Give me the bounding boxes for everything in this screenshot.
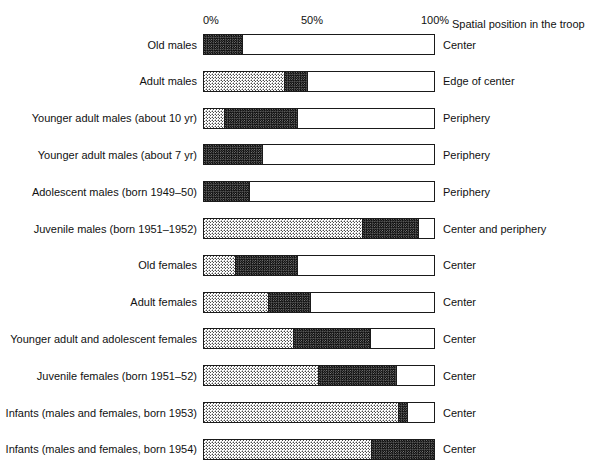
bar-row: Younger adult and adolescent femalesCent… bbox=[0, 328, 597, 349]
bar-track bbox=[203, 108, 435, 129]
bar-track bbox=[203, 218, 435, 239]
bar-row-right-label: Periphery bbox=[443, 185, 490, 198]
bar-track bbox=[203, 328, 435, 349]
bar-track bbox=[203, 255, 435, 276]
bar-segment-light bbox=[204, 293, 269, 312]
bar-row: Adolescent males (born 1949–50)Periphery bbox=[0, 181, 597, 202]
bar-row-label: Adolescent males (born 1949–50) bbox=[32, 185, 197, 198]
bar-segment-dark bbox=[319, 366, 397, 385]
bar-row: Younger adult males (about 10 yr)Periphe… bbox=[0, 108, 597, 129]
bar-segment-light bbox=[204, 366, 319, 385]
bar-track bbox=[203, 402, 435, 423]
bar-row: Old femalesCenter bbox=[0, 255, 597, 276]
bar-segment-light bbox=[204, 256, 236, 275]
bar-row: Adult malesEdge of center bbox=[0, 71, 597, 92]
bar-segment-light bbox=[204, 219, 363, 238]
bar-segment-dark bbox=[204, 182, 250, 201]
axis-tick-100: 100% bbox=[421, 14, 449, 27]
bar-track bbox=[203, 144, 435, 165]
axis-tick-0: 0% bbox=[203, 14, 219, 27]
bar-track bbox=[203, 71, 435, 92]
bar-track bbox=[203, 34, 435, 55]
bar-row-right-label: Periphery bbox=[443, 148, 490, 161]
bar-segment-dark bbox=[363, 219, 419, 238]
bar-row-right-label: Center bbox=[443, 332, 476, 345]
bar-row-label: Younger adult males (about 10 yr) bbox=[32, 112, 197, 125]
bar-row: Juvenile females (born 1951–52)Center bbox=[0, 365, 597, 386]
bar-row: Juvenile males (born 1951–1952)Center an… bbox=[0, 218, 597, 239]
bar-row-label: Adult females bbox=[130, 296, 197, 309]
bar-segment-dark bbox=[236, 256, 297, 275]
bar-row: Infants (males and females, born 1953)Ce… bbox=[0, 402, 597, 423]
bar-row-right-label: Center bbox=[443, 38, 476, 51]
bar-row-right-label: Center bbox=[443, 443, 476, 456]
bar-row-label: Juvenile females (born 1951–52) bbox=[37, 369, 197, 382]
bar-row-label: Younger adult and adolescent females bbox=[10, 332, 197, 345]
bar-row-label: Juvenile males (born 1951–1952) bbox=[34, 222, 197, 235]
bar-row-right-label: Periphery bbox=[443, 112, 490, 125]
bar-row: Adult femalesCenter bbox=[0, 292, 597, 313]
bar-row-label: Old males bbox=[147, 38, 197, 51]
bar-row-label: Old females bbox=[138, 259, 197, 272]
bar-row-right-label: Center bbox=[443, 259, 476, 272]
bar-row-label: Infants (males and females, born 1953) bbox=[6, 406, 197, 419]
bar-track bbox=[203, 181, 435, 202]
axis-tick-50: 50% bbox=[301, 14, 323, 27]
bar-segment-dark bbox=[269, 293, 311, 312]
bar-segment-dark bbox=[204, 145, 263, 164]
bar-segment-dark bbox=[285, 72, 308, 91]
bar-row-label: Younger adult males (about 7 yr) bbox=[38, 148, 197, 161]
bar-segment-light bbox=[204, 72, 285, 91]
bar-track bbox=[203, 439, 435, 460]
bar-row-right-label: Center and periphery bbox=[443, 222, 546, 235]
bar-segment-dark bbox=[294, 329, 371, 348]
bar-track bbox=[203, 365, 435, 386]
bar-segment-dark bbox=[204, 35, 243, 54]
bar-segment-light bbox=[204, 109, 225, 128]
bar-segment-light bbox=[204, 403, 399, 422]
bar-row: Younger adult males (about 7 yr)Peripher… bbox=[0, 144, 597, 165]
bar-row: Infants (males and females, born 1954)Ce… bbox=[0, 439, 597, 460]
bar-segment-dark bbox=[225, 109, 298, 128]
axis-caption: Spatial position in the troop bbox=[452, 18, 585, 31]
bar-segment-dark bbox=[372, 440, 435, 459]
bar-row-right-label: Edge of center bbox=[443, 75, 515, 88]
bar-row: Old malesCenter bbox=[0, 34, 597, 55]
bar-row-label: Adult males bbox=[140, 75, 197, 88]
bar-segment-light bbox=[204, 440, 372, 459]
bar-row-label: Infants (males and females, born 1954) bbox=[6, 443, 197, 456]
bar-track bbox=[203, 292, 435, 313]
bar-row-right-label: Center bbox=[443, 369, 476, 382]
bar-segment-dark bbox=[399, 403, 408, 422]
bar-row-right-label: Center bbox=[443, 406, 476, 419]
bar-row-right-label: Center bbox=[443, 296, 476, 309]
bar-segment-light bbox=[204, 329, 294, 348]
